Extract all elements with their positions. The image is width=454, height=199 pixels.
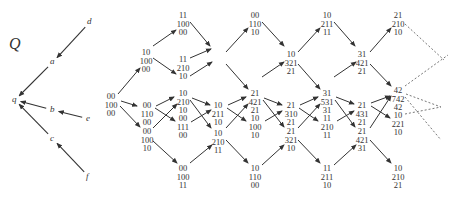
- vertex-a: a: [50, 56, 55, 66]
- node-row: 10: [203, 118, 233, 127]
- node-row: 00: [168, 28, 198, 37]
- node-row: 11: [203, 146, 233, 155]
- vertex-b: b: [50, 104, 55, 114]
- node-row: 31: [347, 144, 377, 153]
- lattice-node: 3142121: [347, 50, 377, 76]
- lattice-node: 1110000: [168, 11, 198, 37]
- lattice-node: 0011000: [132, 101, 162, 127]
- lattice-node: 2121010: [383, 11, 413, 37]
- vertex-e: e: [86, 113, 90, 123]
- node-row: 21: [276, 67, 306, 76]
- quiver-arrow-b-q: [21, 102, 46, 109]
- lattice-node: 0010000: [96, 92, 126, 118]
- node-row: 10: [312, 181, 342, 190]
- node-row: 00: [240, 181, 270, 190]
- node-row: 10: [383, 28, 413, 37]
- lattice-node: 0010010: [132, 127, 162, 153]
- lattice-node: 2131021: [276, 101, 306, 127]
- lattice-node: 1021021: [383, 164, 413, 190]
- node-row: 10: [240, 28, 270, 37]
- node-row: 00: [96, 109, 126, 118]
- lattice-node: 1121010: [168, 55, 198, 81]
- lattice-node: 2142131: [347, 127, 377, 153]
- quiver-arrows: [19, 27, 85, 172]
- lattice-node: 2143121: [347, 101, 377, 127]
- lattice-node: 1010000: [131, 48, 161, 74]
- node-row: 00: [168, 131, 198, 140]
- node-row: 11: [312, 131, 342, 140]
- node-row: 00: [131, 65, 161, 74]
- node-row: 21: [347, 67, 377, 76]
- node-row: 10: [383, 128, 413, 137]
- node-row: 10: [132, 144, 162, 153]
- lattice-node: 1021011: [203, 129, 233, 155]
- lattice-node: 0011100: [168, 114, 198, 140]
- quiver-arrow-f-c: [57, 143, 84, 172]
- node-row: 10: [276, 144, 306, 153]
- lattice-node: 1021110: [203, 101, 233, 127]
- lattice-node: 1011000: [240, 164, 270, 190]
- lattice-node: 1032121: [276, 50, 306, 76]
- lattice-node: 1022110: [383, 111, 413, 137]
- quiver-arrow-d-a: [57, 27, 85, 57]
- dashed-edge: [405, 55, 448, 86]
- node-row: 21: [383, 181, 413, 190]
- lattice-node: 3153131: [312, 89, 342, 115]
- lattice-node: 0010011: [168, 164, 198, 190]
- vertex-q: q: [12, 94, 17, 104]
- lattice-node: 1021111: [312, 11, 342, 37]
- quiver-arrow-a-q: [19, 67, 48, 96]
- node-row: 10: [168, 72, 198, 81]
- lattice-node: 0011010: [240, 11, 270, 37]
- vertex-f: f: [86, 171, 89, 181]
- lattice-node: 2132110: [276, 127, 306, 153]
- lattice-node: 2142121: [240, 89, 270, 115]
- quiver-arrow-c-q: [19, 104, 48, 134]
- node-row: 11: [168, 181, 198, 190]
- vertex-c: c: [50, 133, 54, 143]
- lattice-node: 1010010: [240, 114, 270, 140]
- lattice-node: 1121011: [312, 114, 342, 140]
- lattice-node: 1021010: [168, 89, 198, 115]
- node-row: 11: [312, 28, 342, 37]
- node-row: 10: [240, 131, 270, 140]
- vertex-d: d: [87, 16, 92, 26]
- lattice-arrow: [226, 64, 248, 89]
- quiver-arrow-e-b: [59, 111, 82, 117]
- lattice-node: 1121110: [312, 164, 342, 190]
- lattice-node: 4274242: [383, 86, 413, 112]
